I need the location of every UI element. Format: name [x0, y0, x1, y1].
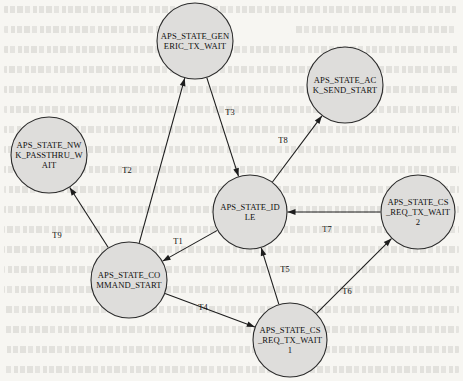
arrowhead-icon: [180, 78, 186, 86]
state-node-label-line: APS_STATE_CS: [387, 197, 448, 207]
edge-label-t4: T4: [198, 303, 208, 312]
state-node-label-line: APS_STATE_GEN: [161, 31, 230, 41]
state-node-cs-req-tx-wait-2[interactable]: APS_STATE_CS_REQ_TX_WAIT2: [381, 175, 455, 249]
edge-line: [261, 248, 279, 304]
arrowhead-icon: [233, 168, 239, 177]
edge-t2: [139, 78, 185, 243]
edge-line: [317, 239, 392, 314]
state-node-command-start[interactable]: APS_STATE_COMMAND_START: [91, 242, 167, 318]
edge-label-t6: T6: [342, 287, 351, 296]
edge-t7: [288, 209, 381, 215]
state-diagram-figure: APS_STATE_GENERIC_TX_WAITAPS_STATE_ACK_S…: [0, 0, 463, 381]
edge-line: [272, 116, 321, 182]
state-node-label-line: K_SEND_START: [313, 85, 378, 95]
state-node-generic-tx-wait[interactable]: APS_STATE_GENERIC_TX_WAIT: [157, 3, 233, 79]
edge-t5: [261, 248, 279, 304]
state-node-label-line: 2: [416, 217, 420, 227]
arrowhead-icon: [70, 187, 77, 195]
state-node-label-line: _REQ_TX_WAIT: [257, 335, 323, 345]
arrowhead-icon: [315, 116, 322, 124]
arrowhead-icon: [288, 209, 296, 215]
state-node-ack-send-start[interactable]: APS_STATE_ACK_SEND_START: [307, 47, 383, 123]
state-node-label-line: ERIC_TX_WAIT: [164, 41, 227, 51]
edge-line: [70, 187, 108, 247]
state-node-label-line: APS_STATE_NW: [17, 140, 83, 150]
arrowhead-icon: [246, 321, 255, 327]
state-node-label-line: K_PASSTHRU_W: [15, 150, 83, 160]
edge-t6: [317, 239, 392, 314]
state-node-label-line: APS_STATE_CS: [259, 325, 320, 335]
state-node-label-line: 1: [288, 345, 292, 355]
state-node-label-line: APS_STATE_ID: [220, 202, 280, 212]
edge-line: [207, 78, 239, 177]
edge-label-t3: T3: [225, 108, 234, 117]
edge-label-t7: T7: [322, 225, 331, 234]
edge-t9: [70, 187, 108, 247]
edge-label-t9: T9: [52, 231, 61, 240]
edge-t4: [165, 293, 255, 326]
edge-line: [139, 78, 185, 243]
state-node-nwk-passthru-wait[interactable]: APS_STATE_NWK_PASSTHRU_WAIT: [11, 117, 87, 193]
state-node-label-line: LE: [245, 212, 256, 222]
state-node-label-line: APS_STATE_CO: [98, 270, 161, 280]
edge-line: [165, 293, 255, 326]
state-node-label-line: MMAND_START: [96, 280, 162, 290]
node-layer: APS_STATE_GENERIC_TX_WAITAPS_STATE_ACK_S…: [11, 3, 455, 377]
state-node-idle[interactable]: APS_STATE_IDLE: [213, 175, 287, 249]
edge-line: [163, 230, 218, 261]
edge-t1: [163, 230, 218, 261]
edge-label-t5: T5: [280, 265, 289, 274]
edge-t8: [272, 116, 321, 182]
arrowhead-icon: [163, 255, 171, 261]
arrowhead-icon: [261, 248, 267, 257]
state-node-label-line: _REQ_TX_WAIT: [385, 207, 451, 217]
state-node-label-line: AIT: [42, 160, 57, 170]
edge-label-t8: T8: [278, 136, 287, 145]
state-machine-diagram: APS_STATE_GENERIC_TX_WAITAPS_STATE_ACK_S…: [0, 0, 463, 381]
state-node-cs-req-tx-wait-1[interactable]: APS_STATE_CS_REQ_TX_WAIT1: [253, 303, 327, 377]
state-node-label-line: APS_STATE_AC: [314, 75, 377, 85]
edge-t3: [207, 78, 239, 177]
edge-label-t1: T1: [173, 237, 182, 246]
edge-label-t2: T2: [122, 166, 131, 175]
